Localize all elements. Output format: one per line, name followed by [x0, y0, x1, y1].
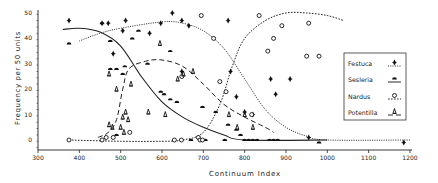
legend-label-potentilla: Potentilla [348, 109, 377, 116]
x-axis-label: Continuum Index [209, 170, 281, 178]
y-tick-label: 30 [24, 60, 32, 67]
x-tick-label: 700 [198, 154, 210, 161]
legend-label-sesleria: Sesleria [348, 76, 373, 83]
x-tick-label: 1100 [361, 154, 376, 161]
ecological-frequency-chart: 3004005006007008009001000110012000102030… [0, 0, 438, 183]
x-tick-label: 1000 [320, 154, 335, 161]
y-tick-label: 40 [24, 34, 32, 41]
x-tick-label: 900 [280, 154, 292, 161]
x-tick-label: 400 [74, 154, 86, 161]
points-sesleria [67, 22, 322, 144]
curve-nardus [69, 12, 344, 141]
x-tick-label: 600 [156, 154, 168, 161]
y-tick-label: 10 [24, 111, 32, 118]
points-potentilla [107, 40, 255, 134]
x-tick-label: 800 [239, 154, 251, 161]
curve-sesleria [63, 28, 328, 140]
x-tick-label: 500 [115, 154, 127, 161]
legend-label-festuca: Festuca [348, 60, 372, 67]
y-axis-label: Frequency per 50 units [14, 31, 22, 125]
y-tick-label: 20 [24, 85, 32, 92]
legend: Festuca Sesleria Nardus Potentilla [344, 53, 406, 120]
y-tick-label: 50 [24, 9, 32, 16]
curve-potentilla [98, 60, 274, 138]
legend-label-nardus: Nardus [348, 93, 370, 100]
x-tick-label: 300 [32, 154, 44, 161]
x-tick-label: 1200 [402, 154, 417, 161]
y-tick-label: 0 [28, 136, 32, 143]
